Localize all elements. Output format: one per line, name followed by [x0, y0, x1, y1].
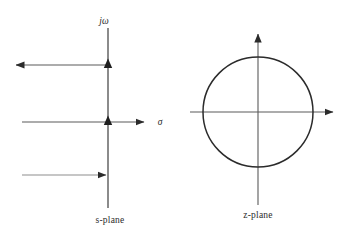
- figure-container: jω σ s-plane z-plane: [0, 0, 351, 246]
- z-plane-caption: z-plane: [243, 210, 272, 220]
- s-plane-sigma-label: σ: [158, 117, 163, 127]
- z-plane-group: z-plane: [190, 34, 333, 220]
- s-plane-upper-pole-marker: [104, 59, 112, 69]
- s-plane-jomega-label: jω: [97, 16, 109, 26]
- s-plane-origin-pole-marker: [104, 116, 112, 126]
- splane-zplane-diagram: jω σ s-plane z-plane: [0, 0, 351, 246]
- s-plane-caption: s-plane: [96, 215, 125, 225]
- s-plane-group: jω σ s-plane: [16, 16, 163, 225]
